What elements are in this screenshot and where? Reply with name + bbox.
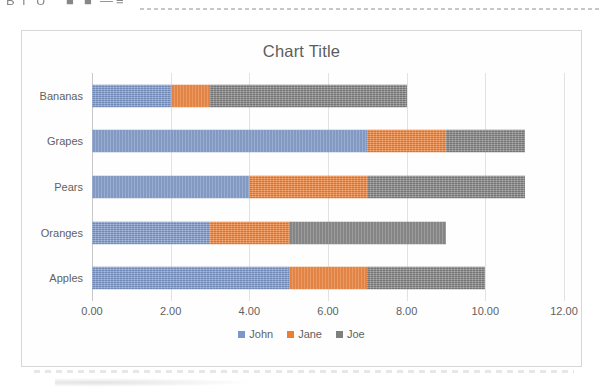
bar-segment-john[interactable] [92,84,171,107]
stacked-bar[interactable] [92,84,407,107]
chart-title[interactable]: Chart Title [22,42,581,61]
bar-segment-john[interactable] [92,175,249,198]
category-row: Oranges [92,210,564,256]
scan-artifact-2 [55,378,255,387]
value-axis-tick-label: 12.00 [550,305,578,317]
underline-icon[interactable]: U [36,0,45,7]
toolbar-strip: B I U ■ ■ — ≡ [0,0,604,18]
value-axis-tick-label: 0.00 [81,305,102,317]
value-axis-tick-label: 6.00 [317,305,338,317]
category-axis-label: Oranges [41,227,83,239]
bar-segment-joe[interactable] [367,267,485,290]
align-icon[interactable]: ≡ [116,0,124,7]
scan-artifact [34,370,574,373]
bar-segment-jane[interactable] [367,130,446,153]
chart-legend[interactable]: JohnJaneJoe [22,328,581,340]
chart-container[interactable]: Chart Title BananasGrapesPearsOrangesApp… [21,30,582,367]
borders-icon[interactable]: — [100,0,113,7]
legend-swatch-icon [336,331,343,338]
stacked-bar[interactable] [92,221,446,244]
toolbar-divider [140,8,602,10]
bar-segment-jane[interactable] [289,267,368,290]
bar-segment-john[interactable] [92,221,210,244]
bar-segment-john[interactable] [92,267,289,290]
stacked-bar[interactable] [92,130,525,153]
legend-label: Joe [347,328,365,340]
bar-segment-jane[interactable] [210,221,289,244]
category-axis-label: Grapes [47,135,83,147]
value-axis-labels: 0.002.004.006.008.0010.0012.00 [92,305,564,321]
italic-icon[interactable]: I [22,0,26,7]
value-axis-tick-label: 10.00 [472,305,500,317]
category-row: Bananas [92,73,564,119]
category-axis-label: Bananas [40,90,83,102]
legend-swatch-icon [238,331,245,338]
category-axis-label: Pears [54,181,83,193]
legend-swatch-icon [287,331,294,338]
stacked-bar[interactable] [92,175,525,198]
legend-label: John [249,328,273,340]
gridline [564,73,565,301]
bar-segment-joe[interactable] [446,130,525,153]
bar-segment-john[interactable] [92,130,367,153]
bold-icon[interactable]: B [6,0,15,7]
bar-segment-jane[interactable] [249,175,367,198]
bar-segment-joe[interactable] [367,175,524,198]
value-axis-tick-label: 4.00 [239,305,260,317]
bar-segment-joe[interactable] [210,84,407,107]
legend-item-joe[interactable]: Joe [336,328,365,340]
stacked-bar[interactable] [92,267,485,290]
paint-bucket-icon[interactable]: ■ [66,0,74,7]
font-color-icon[interactable]: ■ [84,0,92,7]
value-axis-tick-label: 8.00 [396,305,417,317]
plot-inner: BananasGrapesPearsOrangesApples [92,73,564,301]
plot-area[interactable]: BananasGrapesPearsOrangesApples [92,73,564,301]
legend-item-jane[interactable]: Jane [287,328,322,340]
category-row: Apples [92,255,564,301]
category-row: Grapes [92,119,564,165]
bar-segment-jane[interactable] [171,84,210,107]
legend-item-john[interactable]: John [238,328,273,340]
category-row: Pears [92,164,564,210]
category-axis-label: Apples [49,272,83,284]
value-axis-tick-label: 2.00 [160,305,181,317]
legend-label: Jane [298,328,322,340]
bar-segment-joe[interactable] [289,221,446,244]
